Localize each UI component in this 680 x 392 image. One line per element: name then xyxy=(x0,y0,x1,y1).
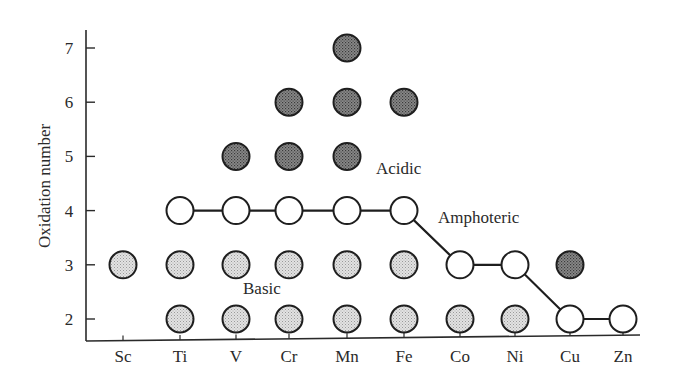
x-tick-label: Mn xyxy=(335,347,359,366)
annotation-basic: Basic xyxy=(243,279,281,298)
point-basic-ti-3 xyxy=(167,251,194,278)
point-amphoteric-v-4 xyxy=(223,197,250,224)
x-tick-label: Co xyxy=(450,347,470,366)
point-acidic-fe-6 xyxy=(391,89,418,116)
x-tick-label: Ni xyxy=(507,347,524,366)
x-tick-label: Fe xyxy=(396,347,413,366)
point-basic-fe-2 xyxy=(391,306,418,333)
annotation-acidic: Acidic xyxy=(376,159,422,178)
point-basic-fe-3 xyxy=(391,251,418,278)
point-basic-co-2 xyxy=(447,306,474,333)
y-tick-label: 6 xyxy=(65,93,74,112)
point-amphoteric-ni-3 xyxy=(502,251,529,278)
y-tick-label: 2 xyxy=(65,310,74,329)
y-tick-label: 3 xyxy=(65,256,74,275)
x-axis xyxy=(86,335,640,341)
point-basic-ni-2 xyxy=(502,306,529,333)
point-amphoteric-zn-2 xyxy=(610,306,637,333)
point-acidic-mn-5 xyxy=(334,143,361,170)
point-amphoteric-fe-4 xyxy=(391,197,418,224)
point-basic-mn-2 xyxy=(334,306,361,333)
chart-canvas: 234567ScTiVCrMnFeCoNiCuZnOxidation numbe… xyxy=(0,0,680,392)
x-tick-label: Cu xyxy=(560,347,580,366)
point-basic-v-2 xyxy=(223,306,250,333)
point-basic-sc-3 xyxy=(110,251,137,278)
point-basic-v-3 xyxy=(223,251,250,278)
x-tick-label: Zn xyxy=(614,347,633,366)
point-acidic-cr-6 xyxy=(276,89,303,116)
x-tick-label: V xyxy=(230,347,243,366)
point-basic-cr-3 xyxy=(276,251,303,278)
y-tick-label: 4 xyxy=(65,202,74,221)
point-basic-mn-3 xyxy=(334,251,361,278)
x-tick-label: Sc xyxy=(115,347,132,366)
point-acidic-mn-6 xyxy=(334,89,361,116)
point-amphoteric-cr-4 xyxy=(276,197,303,224)
y-tick-label: 5 xyxy=(65,147,74,166)
x-tick-label: Ti xyxy=(173,347,188,366)
point-acidic-cu-3 xyxy=(557,251,584,278)
y-axis-label: Oxidation number xyxy=(35,124,54,249)
x-tick-label: Cr xyxy=(281,347,298,366)
point-basic-cr-2 xyxy=(276,306,303,333)
data-points xyxy=(110,35,637,333)
oxidation-chart: 234567ScTiVCrMnFeCoNiCuZnOxidation numbe… xyxy=(0,0,680,392)
point-basic-ti-2 xyxy=(167,306,194,333)
annotation-amphoteric: Amphoteric xyxy=(438,208,520,227)
point-amphoteric-ti-4 xyxy=(167,197,194,224)
y-tick-label: 7 xyxy=(65,39,74,58)
point-acidic-v-5 xyxy=(223,143,250,170)
point-acidic-cr-5 xyxy=(276,143,303,170)
point-amphoteric-mn-4 xyxy=(334,197,361,224)
point-amphoteric-cu-2 xyxy=(557,306,584,333)
point-acidic-mn-7 xyxy=(334,35,361,62)
point-amphoteric-co-3 xyxy=(447,251,474,278)
